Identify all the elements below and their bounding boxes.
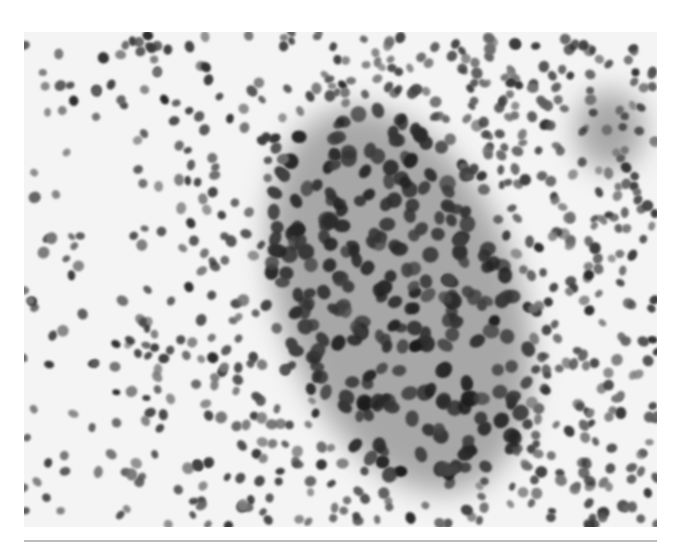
nucleus: [551, 420, 561, 430]
nucleus: [609, 352, 625, 368]
nucleus: [183, 146, 193, 155]
nucleus: [642, 487, 653, 499]
nucleus: [506, 35, 523, 52]
nucleus: [229, 419, 243, 433]
nucleus: [586, 86, 595, 94]
nucleus: [279, 41, 289, 52]
nucleus: [138, 178, 148, 188]
nucleus: [242, 205, 256, 219]
nucleus: [647, 135, 657, 150]
nucleus: [230, 372, 245, 387]
nucleus: [243, 32, 255, 42]
nucleus: [603, 461, 617, 475]
nucleus: [208, 169, 221, 181]
nucleus: [336, 458, 349, 468]
nucleus: [476, 491, 487, 501]
nucleus: [50, 189, 62, 201]
nucleus: [144, 324, 150, 332]
nucleus: [620, 222, 633, 234]
nucleus: [76, 307, 90, 321]
nucleus: [469, 57, 480, 69]
nucleus: [155, 225, 169, 239]
nucleus: [206, 332, 217, 343]
nucleus: [184, 175, 192, 185]
nucleus: [526, 497, 537, 509]
nucleus: [509, 162, 520, 176]
nucleus: [222, 472, 232, 483]
nucleus: [445, 49, 460, 64]
nucleus: [151, 66, 164, 79]
nucleus: [510, 100, 521, 111]
nucleus: [149, 55, 158, 64]
nucleus: [110, 416, 123, 429]
nucleus: [583, 68, 597, 81]
nucleus: [43, 360, 54, 370]
nucleus: [460, 112, 473, 125]
nucleus: [152, 384, 162, 395]
nucleus: [158, 353, 170, 364]
nucleus: [505, 499, 515, 510]
nucleus: [648, 294, 657, 307]
nucleus: [265, 419, 278, 430]
nucleus: [545, 450, 557, 462]
nucleus: [150, 449, 159, 459]
cell-field: [24, 32, 657, 527]
nucleus: [428, 40, 441, 54]
nucleus: [142, 395, 151, 402]
nucleus: [307, 488, 315, 497]
nucleus: [578, 430, 592, 444]
nucleus: [310, 407, 320, 418]
nucleus: [167, 115, 180, 127]
nucleus: [275, 467, 285, 475]
nucleus: [204, 459, 212, 468]
nucleus: [640, 353, 655, 369]
nucleus: [45, 231, 59, 245]
nucleus: [594, 288, 604, 298]
nucleus: [646, 66, 657, 81]
nucleus: [340, 55, 352, 67]
nucleus: [636, 334, 651, 348]
nucleus: [47, 329, 59, 342]
nucleus: [597, 318, 608, 328]
nucleus: [158, 409, 168, 421]
nucleus: [452, 234, 468, 247]
nucleus: [174, 174, 184, 186]
nucleus: [615, 249, 626, 259]
nucleus: [582, 496, 595, 510]
nucleus: [250, 308, 261, 319]
nucleus: [566, 167, 580, 181]
nucleus: [385, 54, 396, 64]
nucleus: [370, 47, 380, 58]
nucleus: [359, 34, 369, 44]
nucleus: [67, 232, 77, 242]
nucleus: [525, 235, 534, 248]
nucleus: [188, 235, 199, 247]
nucleus: [93, 465, 104, 478]
nucleus: [428, 95, 443, 110]
nucleus: [43, 457, 53, 469]
nucleus: [72, 259, 86, 272]
nucleus: [651, 346, 657, 357]
nucleus: [628, 76, 640, 88]
nucleus: [625, 248, 639, 263]
nucleus: [258, 297, 274, 313]
nucleus: [236, 102, 251, 116]
nucleus: [647, 221, 656, 232]
nucleus: [69, 241, 80, 252]
nucleus: [185, 335, 199, 349]
nucleus: [557, 202, 569, 213]
nucleus: [342, 495, 352, 505]
nucleus: [591, 436, 601, 447]
nucleus: [497, 164, 505, 175]
nucleus: [539, 268, 547, 277]
nucleus: [225, 113, 235, 124]
nucleus: [55, 323, 71, 339]
nucleus: [68, 95, 79, 107]
nucleus: [40, 492, 52, 504]
nucleus: [203, 519, 213, 527]
nucleus: [128, 230, 140, 241]
nucleus: [196, 354, 207, 365]
nucleus: [283, 419, 295, 431]
nucleus: [615, 498, 630, 514]
nucleus: [115, 293, 131, 308]
